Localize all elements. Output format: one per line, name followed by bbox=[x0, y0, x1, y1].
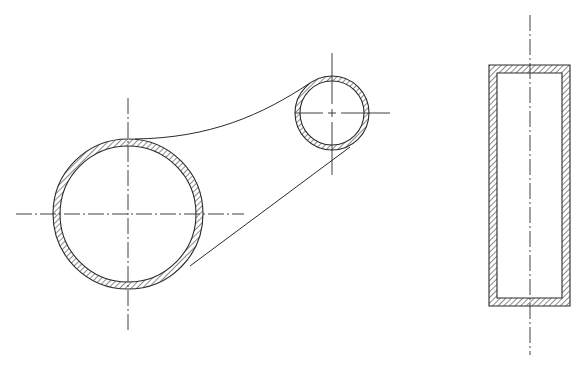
engineering-drawing bbox=[0, 0, 583, 367]
front-view bbox=[16, 53, 390, 332]
upper-web-curve bbox=[135, 83, 310, 139]
side-section-walls bbox=[489, 65, 570, 306]
small-boss-center-lines bbox=[295, 53, 390, 175]
side-view bbox=[489, 15, 570, 355]
lower-web-line bbox=[190, 147, 350, 266]
